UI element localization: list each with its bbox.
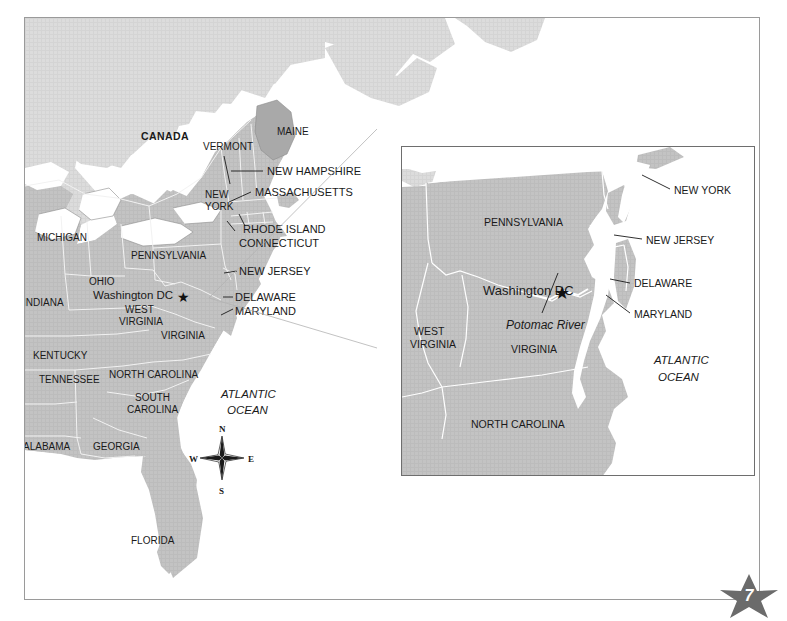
- label-georgia: GEORGIA: [93, 441, 140, 452]
- label-new-york-2: YORK: [205, 201, 234, 212]
- inset-washington-dc-star-marker: ★: [554, 283, 570, 303]
- page-frame: CANADA MAINE VERMONT NEW YORK MICHIGAN P…: [24, 17, 760, 600]
- inset-label-virginia: VIRGINIA: [511, 343, 557, 355]
- inset-detail-map: PENNSYLVANIA WEST VIRGINIA VIRGINIA NORT…: [402, 147, 755, 476]
- callout-delaware: DELAWARE: [235, 291, 296, 303]
- inset-label-atlantic-ocean-2: OCEAN: [658, 371, 700, 383]
- label-atlantic-ocean-2: OCEAN: [227, 404, 269, 416]
- label-michigan: MICHIGAN: [37, 232, 87, 243]
- compass-label-north: N: [219, 424, 226, 434]
- inset-callout-new-jersey: NEW JERSEY: [646, 234, 714, 246]
- compass-label-south: S: [219, 486, 224, 496]
- callout-new-hampshire: NEW HAMPSHIRE: [267, 165, 361, 177]
- compass-label-east: E: [248, 454, 254, 464]
- label-north-carolina: NORTH CAROLINA: [109, 369, 199, 380]
- label-virginia: VIRGINIA: [161, 330, 205, 341]
- compass-label-west: W: [189, 454, 198, 464]
- inset-callout-maryland: MARYLAND: [634, 308, 693, 320]
- label-kentucky: KENTUCKY: [33, 350, 88, 361]
- label-canada: CANADA: [141, 130, 189, 142]
- label-florida: FLORIDA: [131, 535, 175, 546]
- inset-map-frame: PENNSYLVANIA WEST VIRGINIA VIRGINIA NORT…: [401, 146, 755, 476]
- label-new-york-1: NEW: [205, 189, 229, 200]
- label-maine: MAINE: [277, 126, 309, 137]
- callout-rhode-island: RHODE ISLAND: [243, 223, 326, 235]
- washington-dc-star-marker: ★: [177, 289, 190, 305]
- label-south-carolina-1: SOUTH: [135, 392, 170, 403]
- inset-label-pennsylvania: PENNSYLVANIA: [484, 216, 563, 228]
- inset-map-container: PENNSYLVANIA WEST VIRGINIA VIRGINIA NORT…: [401, 146, 755, 476]
- inset-label-potomac-river: Potomac River: [506, 318, 586, 332]
- label-tennessee: TENNESSEE: [39, 374, 100, 385]
- label-south-carolina-2: CAROLINA: [127, 404, 178, 415]
- label-atlantic-ocean-1: ATLANTIC: [220, 388, 276, 400]
- label-west-virginia-1: WEST: [125, 304, 154, 315]
- label-indiana: INDIANA: [25, 297, 64, 308]
- label-vermont: VERMONT: [203, 141, 253, 152]
- inset-callout-new-york: NEW YORK: [674, 184, 731, 196]
- inset-label-north-carolina: NORTH CAROLINA: [471, 418, 565, 430]
- label-washington-dc: Washington DC: [93, 289, 173, 301]
- callout-new-jersey: NEW JERSEY: [239, 265, 311, 277]
- inset-label-west-virginia-1: WEST: [414, 325, 445, 337]
- label-pennsylvania: PENNSYLVANIA: [131, 250, 207, 261]
- label-ohio: OHIO: [89, 276, 115, 287]
- inset-callout-delaware: DELAWARE: [634, 277, 692, 289]
- label-west-virginia-2: VIRGINIA: [119, 316, 163, 327]
- page-number-text: 7: [716, 587, 782, 605]
- callout-connecticut: CONNECTICUT: [239, 237, 319, 249]
- label-alabama: ALABAMA: [25, 441, 71, 452]
- inset-label-west-virginia-2: VIRGINIA: [410, 338, 456, 350]
- page-number-star: 7: [716, 574, 782, 618]
- callout-massachusetts: MASSACHUSETTS: [255, 186, 353, 198]
- inset-label-atlantic-ocean-1: ATLANTIC: [653, 354, 709, 366]
